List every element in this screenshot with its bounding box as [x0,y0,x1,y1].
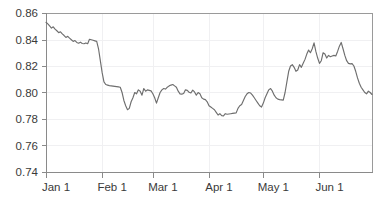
y-tick-label: 0.74 [16,166,39,178]
x-tick-label: Jun 1 [315,181,343,193]
x-tick-label: Mar 1 [148,181,177,193]
line-chart: 0.740.760.780.800.820.840.86 Jan 1Feb 1M… [0,0,382,206]
y-tick-label: 0.76 [16,140,38,152]
y-tick-label: 0.78 [16,113,38,125]
chart-canvas: 0.740.760.780.800.820.840.86 Jan 1Feb 1M… [0,0,382,206]
y-axis-ticks [42,14,47,173]
x-tick-label: Apr 1 [205,181,233,193]
y-tick-label: 0.82 [16,60,38,72]
x-axis-labels: Jan 1Feb 1Mar 1Apr 1May 1Jun 1 [42,181,344,193]
x-tick-label: Feb 1 [97,181,126,193]
y-tick-label: 0.80 [16,87,38,99]
x-tick-label: Jan 1 [42,181,70,193]
x-tick-label: May 1 [258,181,289,193]
x-axis-ticks [47,173,320,178]
y-tick-label: 0.84 [16,34,39,46]
y-axis-labels: 0.740.760.780.800.820.840.86 [16,7,39,178]
y-tick-label: 0.86 [16,7,38,19]
